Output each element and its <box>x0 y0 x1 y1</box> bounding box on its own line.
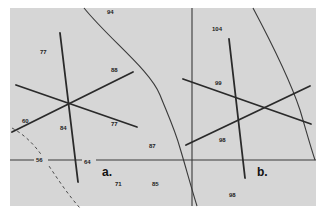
panel-label-a: a. <box>102 165 112 179</box>
value-label: 88 <box>111 67 118 73</box>
value-label: 77 <box>40 49 47 55</box>
value-label: 98 <box>229 192 236 198</box>
value-label: 77 <box>111 121 118 127</box>
value-label: 99 <box>215 80 222 86</box>
value-label: 71 <box>115 181 122 187</box>
value-label: 104 <box>212 26 223 32</box>
value-label: 94 <box>107 9 114 15</box>
diagram-figure: 94 77 88 60 84 77 56 64 87 71 85 104 99 … <box>0 0 322 217</box>
value-label: 84 <box>60 125 67 131</box>
value-label: 60 <box>22 118 29 124</box>
value-label: 56 <box>36 157 43 163</box>
value-label: 85 <box>152 181 159 187</box>
panel-label-b: b. <box>257 165 268 179</box>
value-label: 87 <box>149 143 156 149</box>
value-label: 64 <box>84 159 91 165</box>
value-label: 98 <box>219 137 226 143</box>
